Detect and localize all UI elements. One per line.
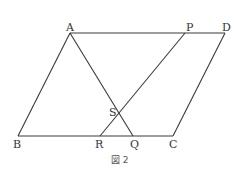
label-S: S <box>109 106 117 119</box>
segment-DC <box>173 33 225 136</box>
label-A: A <box>65 21 75 34</box>
segment-AQ <box>70 33 133 136</box>
label-Q: Q <box>130 138 139 151</box>
label-B: B <box>13 138 21 151</box>
label-C: C <box>169 138 177 151</box>
label-R: R <box>95 138 104 151</box>
label-P: P <box>186 21 194 34</box>
segment-AB <box>18 33 70 136</box>
figure-caption: 図 2 <box>111 155 129 165</box>
diagram-canvas: A P D B R Q C S 図 2 <box>0 0 240 171</box>
label-D: D <box>222 21 231 34</box>
segment-PR <box>100 33 185 136</box>
